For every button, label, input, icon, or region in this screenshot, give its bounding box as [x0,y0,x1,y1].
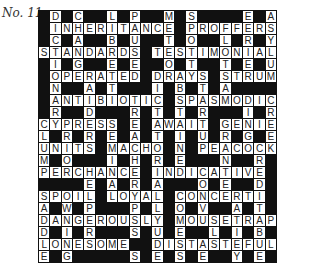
letter-cell[interactable]: D [152,71,162,82]
letter-cell[interactable]: T [186,47,196,58]
letter-cell[interactable]: T [232,71,242,82]
letter-cell[interactable]: Y [186,71,196,82]
letter-cell[interactable]: W [164,119,174,130]
letter-cell[interactable]: P [198,143,208,154]
letter-cell[interactable]: S [209,95,219,106]
letter-cell[interactable]: E [84,119,94,130]
letter-cell[interactable]: R [50,107,60,118]
letter-cell[interactable]: H [130,155,140,166]
letter-cell[interactable]: I [232,227,242,238]
letter-cell[interactable]: I [73,191,83,202]
letter-cell[interactable]: D [254,179,264,190]
letter-cell[interactable]: O [186,215,196,226]
letter-cell[interactable]: A [118,143,128,154]
letter-cell[interactable]: C [232,143,242,154]
letter-cell[interactable]: N [164,167,174,178]
letter-cell[interactable]: D [130,71,140,82]
letter-cell[interactable]: A [107,179,117,190]
letter-cell[interactable]: F [232,23,242,34]
letter-cell[interactable]: T [73,143,83,154]
letter-cell[interactable]: I [107,23,117,34]
letter-cell[interactable]: L [266,47,276,58]
letter-cell[interactable]: G [243,131,253,142]
letter-cell[interactable]: A [130,131,140,142]
letter-cell[interactable]: S [130,227,140,238]
letter-cell[interactable]: M [209,47,219,58]
letter-cell[interactable]: E [254,167,264,178]
letter-cell[interactable]: T [243,191,253,202]
letter-cell[interactable]: S [175,239,185,250]
letter-cell[interactable]: E [175,227,185,238]
letter-cell[interactable]: L [39,239,49,250]
letter-cell[interactable]: I [62,143,72,154]
letter-cell[interactable]: E [175,155,185,166]
letter-cell[interactable]: N [73,47,83,58]
letter-cell[interactable]: M [107,239,117,250]
letter-cell[interactable]: Y [130,191,140,202]
letter-cell[interactable]: T [198,83,208,94]
letter-cell[interactable]: A [254,215,264,226]
letter-cell[interactable]: H [73,23,83,34]
letter-cell[interactable]: E [130,119,140,130]
letter-cell[interactable]: U [198,215,208,226]
letter-cell[interactable]: A [266,11,276,22]
letter-cell[interactable]: A [50,95,60,106]
letter-cell[interactable]: P [50,191,60,202]
letter-cell[interactable]: L [152,203,162,214]
letter-cell[interactable]: C [39,119,49,130]
letter-cell[interactable]: O [62,191,72,202]
letter-cell[interactable]: A [175,71,185,82]
letter-cell[interactable]: R [232,191,242,202]
letter-cell[interactable]: P [130,11,140,22]
letter-cell[interactable]: E [266,131,276,142]
letter-cell[interactable]: T [220,167,230,178]
letter-cell[interactable]: I [107,95,117,106]
letter-cell[interactable]: R [130,107,140,118]
letter-cell[interactable]: M [39,155,49,166]
letter-cell[interactable]: S [39,47,49,58]
letter-cell[interactable]: P [130,203,140,214]
letter-cell[interactable]: T [232,215,242,226]
letter-cell[interactable]: T [175,107,185,118]
letter-cell[interactable]: A [130,23,140,34]
letter-cell[interactable]: N [243,119,253,130]
letter-cell[interactable]: A [198,239,208,250]
letter-cell[interactable]: A [84,83,94,94]
letter-cell[interactable]: V [243,167,253,178]
letter-cell[interactable]: E [232,239,242,250]
letter-cell[interactable]: E [152,251,162,262]
letter-cell[interactable]: D [118,47,128,58]
letter-cell[interactable]: M [175,215,185,226]
letter-cell[interactable]: A [175,119,185,130]
letter-cell[interactable]: E [220,179,230,190]
letter-cell[interactable]: A [62,47,72,58]
letter-cell[interactable]: P [84,203,94,214]
letter-cell[interactable]: I [50,23,60,34]
letter-cell[interactable]: U [118,215,128,226]
letter-cell[interactable]: A [232,203,242,214]
letter-cell[interactable]: I [254,191,264,202]
letter-cell[interactable]: W [62,203,72,214]
letter-cell[interactable]: D [175,167,185,178]
letter-cell[interactable]: S [84,143,94,154]
letter-cell[interactable]: B [254,227,264,238]
letter-cell[interactable]: E [73,239,83,250]
letter-cell[interactable]: A [96,71,106,82]
letter-cell[interactable]: I [152,167,162,178]
letter-cell[interactable]: R [243,215,253,226]
letter-cell[interactable]: M [220,95,230,106]
letter-cell[interactable]: Y [232,251,242,262]
letter-cell[interactable]: U [130,35,140,46]
letter-cell[interactable]: Y [50,119,60,130]
letter-cell[interactable]: P [39,167,49,178]
letter-cell[interactable]: S [209,239,219,250]
letter-cell[interactable]: R [84,227,94,238]
letter-cell[interactable]: S [130,215,140,226]
letter-cell[interactable]: S [130,251,140,262]
letter-cell[interactable]: C [175,191,185,202]
letter-cell[interactable]: E [107,131,117,142]
letter-cell[interactable]: E [39,251,49,262]
letter-cell[interactable]: T [220,239,230,250]
letter-cell[interactable]: N [107,167,117,178]
letter-cell[interactable]: R [96,23,106,34]
